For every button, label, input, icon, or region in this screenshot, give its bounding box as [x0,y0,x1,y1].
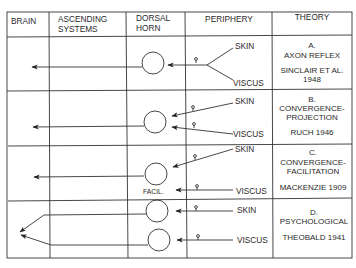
theory-name: CONVERGENCE- [279,104,345,113]
theory-year: 1948 [303,75,321,84]
ganglion-cell-icon [197,235,200,240]
header-brain: BRAIN [11,16,36,26]
skin-label: SKIN [237,205,256,215]
theory-name-line2: FACILITATION [287,167,340,176]
header-dorsal: DORSAL [136,13,171,23]
row-divider [8,198,352,201]
theory-letter: B. [308,95,316,104]
dorsal-horn-cell-viscus [148,229,170,251]
dorsal-horn-cell [145,163,167,185]
theory-author: THEOBALD 1941 [282,233,346,242]
viscus-afferent-arrow [172,127,233,134]
header-theory: THEORY [295,12,330,22]
facilitation-label: FACIL. [143,188,164,195]
brain-arrow-skin [20,215,44,232]
viscus-label: VISCUS [236,186,267,196]
row-divider [7,35,352,37]
theory-column: A. AXON REFLEX SINCLAIR ET AL. 1948 B. C… [279,41,348,242]
header-horn: HORN [136,23,160,33]
row-c-convergence-facilitation [34,149,233,190]
row-divider [8,144,352,146]
column-divider [185,12,187,258]
dorsal-horn-cell [144,111,166,133]
skin-label: SKIN [235,144,254,154]
dorsal-horn-cell-skin [146,200,168,222]
skin-afferent-arrow [173,149,233,167]
theory-name: AXON REFLEX [284,51,341,60]
theory-name: CONVERGENCE- [280,158,346,167]
ganglion-cell-icon [196,185,199,190]
skin-label: SKIN [235,41,254,51]
ganglion-cell-icon [195,206,198,211]
theory-author: RUCH 1946 [290,128,334,137]
ganglion-cell-icon [192,106,195,111]
column-divider [272,12,273,258]
theory-author: MACKENZIE 1909 [280,183,347,192]
row-b-convergence-projection [33,103,233,134]
header-ascending: ASCENDING [58,14,107,24]
header-periphery: PERIPHERY [205,14,253,24]
viscus-branch [207,65,233,80]
theory-name-line2: PROJECTION [286,113,338,122]
theory-letter: C. [309,148,317,157]
theory-author: SINCLAIR ET AL. [281,66,344,75]
viscus-label: VISCUS [237,235,268,245]
viscus-label: VISCUS [233,129,264,139]
skin-afferent-arrow [172,103,233,116]
ganglion-cell-icon [195,58,198,63]
theory-letter: D. [310,208,318,217]
theory-letter: A. [308,41,316,50]
ganglion-cell-icon [194,155,197,160]
table-header: BRAIN ASCENDING SYSTEMS DORSAL HORN PERI… [11,12,330,34]
brain-arrow-viscus [21,235,51,245]
column-divider [126,12,128,258]
row-a-axon-reflex [32,48,233,80]
row-divider [7,89,352,91]
periphery-labels: SKIN VISCUS SKIN VISCUS SKIN VISCUS SKIN… [143,41,268,245]
ascending-line-skin [44,214,146,215]
theory-name: PSYCHOLOGICAL [280,217,349,226]
header-systems: SYSTEMS [58,24,98,34]
dorsal-horn-cell [142,52,164,74]
viscus-label: VISCUS [233,78,264,88]
ganglion-cell-icon [193,123,196,128]
row-d-psychological [20,200,233,251]
column-divider [49,12,50,258]
skin-label: SKIN [235,96,254,106]
referred-pain-theories-diagram: BRAIN ASCENDING SYSTEMS DORSAL HORN PERI… [0,0,356,268]
skin-branch [207,48,233,65]
